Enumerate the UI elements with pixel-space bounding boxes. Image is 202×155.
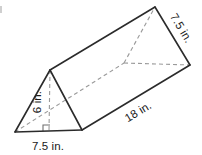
corner-artifact (0, 6, 2, 13)
label-base-width: 7.5 in. (32, 140, 64, 152)
geometry-figure: 7.5 in. 6 in. 18 in. 7.5 in. (0, 0, 202, 155)
prism-diagram: 7.5 in. 6 in. 18 in. 7.5 in. (0, 0, 202, 155)
label-triangle-height: 6 in. (31, 91, 43, 113)
